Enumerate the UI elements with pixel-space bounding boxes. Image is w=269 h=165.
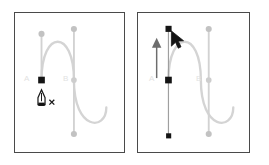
label-b-before: B bbox=[63, 75, 68, 83]
pen-tool-cursor-icon bbox=[38, 90, 45, 106]
direction-handle-dot-b-bottom-after[interactable] bbox=[206, 131, 212, 137]
direction-handle-dot-b-top-after[interactable] bbox=[206, 26, 212, 32]
direction-handle-dot-a-before[interactable] bbox=[38, 31, 44, 37]
drag-direction-up-arrow-icon bbox=[152, 38, 161, 78]
delete-point-x-icon bbox=[49, 100, 54, 105]
figure-two-panel-path-handles: A B A bbox=[0, 0, 269, 165]
panel-after-drag: A B bbox=[137, 12, 250, 153]
arrow-pointer-cursor-icon bbox=[171, 31, 183, 48]
panel-after-canvas bbox=[138, 13, 249, 152]
direction-handle-dot-a-top-after[interactable] bbox=[166, 26, 172, 32]
direction-handle-dot-a-bottom-after[interactable] bbox=[166, 133, 171, 138]
label-b-after: B bbox=[196, 75, 201, 83]
panel-before-drag: A B bbox=[14, 12, 125, 153]
panel-before-canvas bbox=[15, 13, 124, 152]
anchor-point-a-after[interactable] bbox=[165, 77, 172, 84]
anchor-point-a-before[interactable] bbox=[38, 77, 45, 84]
direction-handle-dot-b-top-before[interactable] bbox=[71, 26, 77, 32]
direction-handle-dot-b-bottom-before[interactable] bbox=[71, 131, 77, 137]
anchor-point-b-after[interactable] bbox=[206, 77, 212, 83]
anchor-point-b-before[interactable] bbox=[71, 77, 77, 83]
label-a-before: A bbox=[24, 75, 29, 83]
label-a-after: A bbox=[149, 75, 154, 83]
